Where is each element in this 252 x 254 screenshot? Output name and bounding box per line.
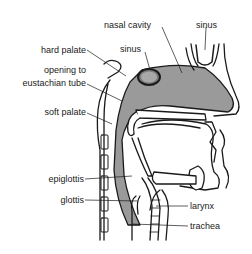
label-sinus-top: sinus [196,20,217,30]
respiratory-tract-diagram: nasal cavity sinus sinus hard palate ope… [0,0,252,254]
label-sinus-mid: sinus [120,44,141,54]
leader-soft-palate [87,113,112,124]
label-hard-palate: hard palate [10,45,86,55]
epiglottis-shape [132,138,152,176]
label-nasal-cavity: nasal cavity [104,20,151,30]
label-epiglottis: epiglottis [10,174,84,184]
label-trachea: trachea [190,221,220,231]
label-soft-palate: soft palate [10,107,86,117]
leader-eustachian [87,84,122,101]
anatomy-illustration [0,0,252,254]
label-glottis: glottis [10,195,84,205]
label-opening-to: opening to [10,65,86,75]
label-larynx: larynx [190,201,214,211]
leader-sinus-mid [145,52,150,70]
hard-palate-shape [136,110,206,120]
label-eustachian-tube: eustachian tube [0,78,86,88]
leader-sinus-top [205,27,206,50]
